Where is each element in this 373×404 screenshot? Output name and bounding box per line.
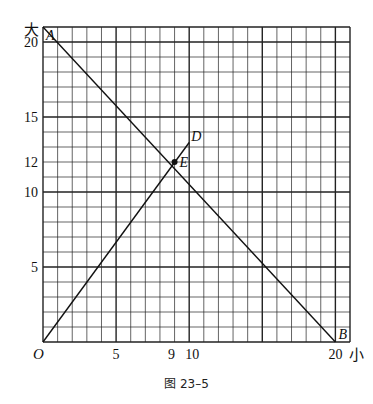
point-b-label: B bbox=[338, 327, 347, 342]
point-e-label: E bbox=[179, 155, 189, 170]
y-tick-label: 15 bbox=[24, 110, 38, 125]
x-tick-label: 20 bbox=[328, 347, 342, 362]
figure-caption: 图 23–5 bbox=[0, 374, 373, 391]
x-tick-label: 9 bbox=[168, 347, 175, 362]
y-tick-label: 10 bbox=[24, 185, 38, 200]
y-axis-label: 大 bbox=[24, 21, 39, 39]
y-tick-label: 5 bbox=[31, 260, 38, 275]
x-tick-label: 5 bbox=[113, 347, 120, 362]
point-d-label: D bbox=[190, 129, 201, 144]
x-tick-label: 10 bbox=[185, 347, 199, 362]
x-axis-label: 小 bbox=[349, 346, 364, 364]
point-a-label: A bbox=[45, 28, 55, 43]
chart: EABDO591020510121520大小 bbox=[0, 0, 373, 404]
origin-label: O bbox=[33, 346, 44, 362]
point-e-marker bbox=[172, 159, 178, 165]
y-tick-label: 12 bbox=[24, 155, 38, 170]
